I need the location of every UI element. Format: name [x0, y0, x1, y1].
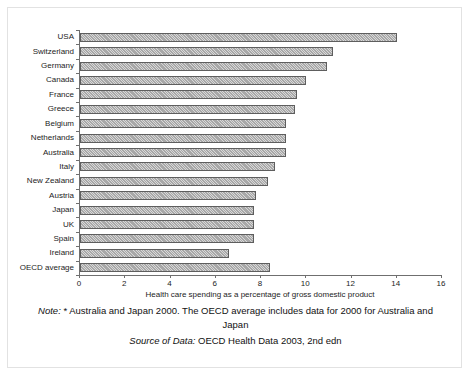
x-axis-tick-label: 6	[213, 279, 217, 288]
source-text: OECD Health Data 2003, 2nd edn	[198, 335, 342, 346]
x-axis-tick	[170, 275, 171, 278]
y-axis-tick	[76, 246, 79, 247]
bar	[80, 234, 254, 243]
bar	[80, 148, 286, 157]
category-label: France	[49, 91, 74, 99]
plot-area: USASwitzerlandGermanyCanadaFranceGreeceB…	[79, 30, 441, 275]
y-axis-tick	[76, 217, 79, 218]
category-label: Netherlands	[31, 134, 74, 142]
bar	[80, 105, 295, 114]
y-axis-tick	[76, 232, 79, 233]
x-axis-tick	[305, 275, 306, 278]
x-axis-tick	[215, 275, 216, 278]
category-label: UK	[63, 221, 74, 229]
y-axis-tick	[76, 59, 79, 60]
source-line: Source of Data: OECD Health Data 2003, 2…	[28, 334, 443, 348]
bar	[80, 220, 254, 229]
y-axis-tick	[76, 189, 79, 190]
category-label: Italy	[59, 163, 74, 171]
category-label: Austria	[49, 192, 74, 200]
y-axis-tick	[76, 174, 79, 175]
bar	[80, 76, 306, 85]
y-axis-tick	[76, 203, 79, 204]
x-axis-tick-label: 0	[77, 279, 81, 288]
category-label: Australia	[43, 149, 74, 157]
x-axis-tick-label: 8	[258, 279, 262, 288]
note-label: Note:	[38, 305, 61, 316]
bar	[80, 33, 397, 42]
y-axis-tick	[76, 145, 79, 146]
bar	[80, 47, 333, 56]
category-label: Japan	[52, 206, 74, 214]
category-label: Switzerland	[33, 48, 74, 56]
y-axis-tick	[76, 44, 79, 45]
x-axis-tick-label: 4	[167, 279, 171, 288]
category-label: Spain	[54, 235, 74, 243]
x-axis-tick-label: 12	[346, 279, 355, 288]
bar	[80, 191, 256, 200]
x-axis-tick	[396, 275, 397, 278]
category-label: Canada	[46, 76, 74, 84]
source-label: Source of Data:	[129, 335, 195, 346]
category-label: New Zealand	[27, 177, 74, 185]
category-label: USA	[58, 33, 74, 41]
bar	[80, 62, 327, 71]
bar	[80, 162, 275, 171]
x-axis-tick-label: 14	[391, 279, 400, 288]
bar	[80, 90, 297, 99]
bar-chart: USASwitzerlandGermanyCanadaFranceGreeceB…	[8, 16, 463, 301]
x-axis-title: Health care spending as a percentage of …	[79, 290, 441, 299]
category-label: OECD average	[20, 264, 74, 272]
x-axis-tick	[441, 275, 442, 278]
figure-page: USASwitzerlandGermanyCanadaFranceGreeceB…	[7, 7, 462, 368]
note-text: * Australia and Japan 2000. The OECD ave…	[63, 305, 433, 330]
bar	[80, 134, 286, 143]
x-axis-tick-label: 10	[301, 279, 310, 288]
x-axis-tick	[260, 275, 261, 278]
y-axis-tick	[76, 102, 79, 103]
x-axis-tick	[124, 275, 125, 278]
category-label: Belgium	[45, 120, 74, 128]
bar	[80, 263, 270, 272]
x-axis-tick	[79, 275, 80, 278]
y-axis-tick	[76, 160, 79, 161]
y-axis-tick	[76, 30, 79, 31]
x-axis-tick-label: 2	[122, 279, 126, 288]
y-axis-tick	[76, 116, 79, 117]
category-label: Greece	[48, 105, 74, 113]
y-axis-tick	[76, 88, 79, 89]
category-label: Germany	[41, 62, 74, 70]
category-label: Ireland	[50, 249, 74, 257]
y-axis-tick	[76, 73, 79, 74]
bar	[80, 177, 268, 186]
y-axis-tick	[76, 131, 79, 132]
caption-block: Note: * Australia and Japan 2000. The OE…	[28, 304, 443, 347]
note-line: Note: * Australia and Japan 2000. The OE…	[28, 304, 443, 332]
x-axis-tick	[351, 275, 352, 278]
bar	[80, 206, 254, 215]
bar	[80, 249, 229, 258]
x-axis-tick-label: 16	[437, 279, 446, 288]
y-axis-tick	[76, 261, 79, 262]
bar	[80, 119, 286, 128]
